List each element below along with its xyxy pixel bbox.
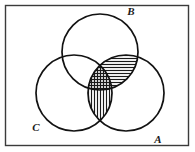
label-set-a: A [153,133,161,145]
venn-diagram-figure: B C A [0,0,195,152]
label-set-c: C [32,121,40,133]
venn-diagram-canvas: B C A [0,0,195,152]
label-set-b: B [126,5,134,17]
